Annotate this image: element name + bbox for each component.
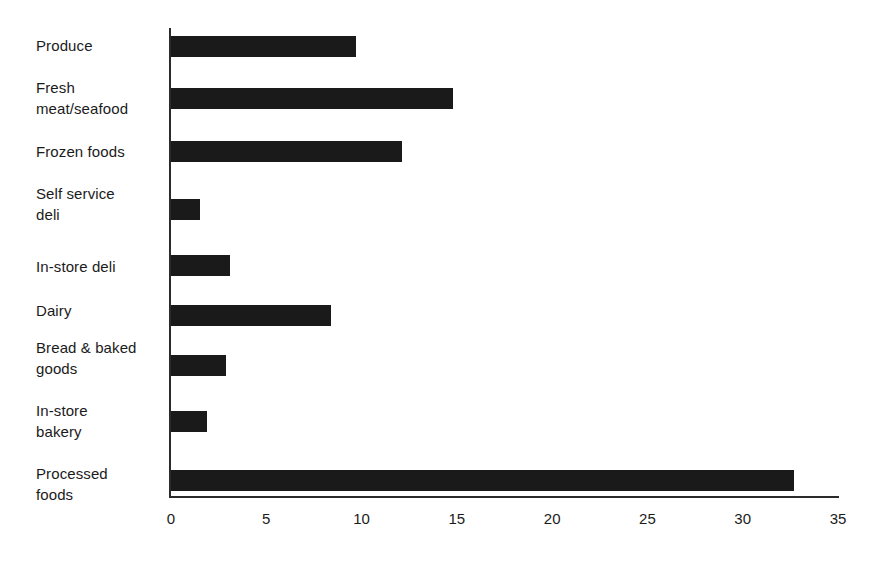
bar-produce (171, 36, 356, 57)
category-label-produce: Produce (36, 35, 162, 56)
bar-frozen-foods (171, 141, 402, 162)
category-label-in-store-bakery: In-store bakery (36, 400, 162, 442)
category-label-in-store-deli: In-store deli (36, 256, 162, 277)
x-tick-label-5: 5 (246, 510, 286, 527)
x-tick-label-20: 20 (532, 510, 572, 527)
bar-in-store-bakery (171, 411, 207, 432)
bar-self-service-deli (171, 199, 200, 220)
bar-in-store-deli (171, 255, 230, 276)
bar-fresh-meat-seafood (171, 88, 453, 109)
bar-processed-foods (171, 470, 794, 491)
bar-bread-baked-goods (171, 355, 226, 376)
horizontal-bar-chart: Produce Fresh meat/seafood Frozen foods … (0, 0, 876, 568)
plot-area: Produce Fresh meat/seafood Frozen foods … (0, 0, 876, 568)
bar-dairy (171, 305, 331, 326)
category-label-self-service-deli: Self service deli (36, 183, 162, 225)
x-tick-label-25: 25 (627, 510, 667, 527)
category-label-frozen-foods: Frozen foods (36, 141, 162, 162)
x-tick-label-0: 0 (151, 510, 191, 527)
category-label-processed-foods: Processed foods (36, 463, 162, 505)
category-label-dairy: Dairy (36, 300, 162, 321)
x-tick-label-35: 35 (818, 510, 858, 527)
x-tick-label-30: 30 (723, 510, 763, 527)
category-label-fresh-meat-seafood: Fresh meat/seafood (36, 77, 162, 119)
category-label-bread-baked-goods: Bread & baked goods (36, 337, 162, 379)
x-tick-label-15: 15 (437, 510, 477, 527)
x-tick-label-10: 10 (342, 510, 382, 527)
x-axis-line (169, 496, 839, 498)
